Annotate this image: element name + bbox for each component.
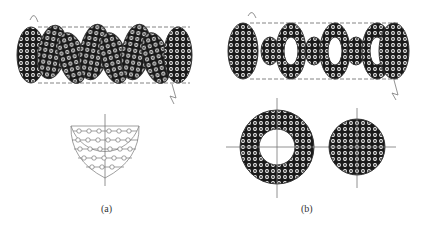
tube-hole (122, 156, 126, 160)
panel-a-shell (17, 15, 192, 104)
tube-hole (126, 138, 130, 142)
annular-baffle (228, 23, 258, 79)
tube-hole (82, 156, 86, 160)
panel-a-cross-section (71, 114, 139, 186)
tube-hole (92, 156, 96, 160)
tube-hole (87, 129, 91, 133)
panel-a-label: (a) (101, 203, 112, 214)
tube-hole (90, 165, 94, 169)
tube-hole (110, 165, 114, 169)
tube-hole (116, 138, 120, 142)
tube-hole (100, 165, 104, 169)
tube-hole (128, 147, 132, 151)
tube-hole (117, 129, 121, 133)
diagram-canvas (0, 0, 426, 233)
inlet-arrow-icon (248, 12, 256, 18)
tube-hole (106, 138, 110, 142)
tube-hole (97, 129, 101, 133)
tube-hole (76, 138, 80, 142)
tube-hole (102, 156, 106, 160)
inlet-arrow-icon (30, 15, 38, 22)
tube-hole (88, 147, 92, 151)
outlet-arrow-icon (392, 80, 398, 100)
tube-hole (107, 129, 111, 133)
panel-b-label: (b) (301, 203, 313, 214)
annular-hole (284, 37, 298, 65)
tube-hole (98, 147, 102, 151)
baffle-full (164, 27, 192, 83)
tube-hole (77, 129, 81, 133)
tube-hole (86, 138, 90, 142)
tube-hole (108, 147, 112, 151)
annular-baffle (379, 23, 409, 79)
tube-hole (96, 138, 100, 142)
tube-hole (112, 156, 116, 160)
panel-b-cross-sections (226, 98, 396, 198)
annular-hole (328, 37, 342, 65)
tube-hole (127, 129, 131, 133)
tube-hole (118, 147, 122, 151)
panel-b-shell (228, 12, 409, 100)
tube-hole (78, 147, 82, 151)
outlet-arrow-icon (170, 84, 176, 104)
